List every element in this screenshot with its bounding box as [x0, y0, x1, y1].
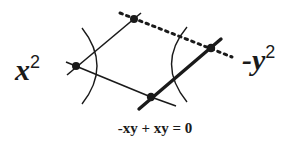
left-label-base: x — [14, 53, 30, 86]
left-label-exponent: 2 — [30, 52, 40, 72]
vertex-bottom — [147, 93, 155, 101]
feynman-diagram: x2 -y2 -xy + xy = 0 — [0, 0, 294, 141]
right-label-sign: - — [242, 43, 252, 76]
right-label-exponent: 2 — [265, 42, 275, 62]
vertex-left — [72, 62, 80, 70]
right-label: -y2 — [242, 42, 275, 76]
right-label-base: y — [249, 43, 266, 76]
vertex-top — [130, 15, 138, 23]
equation-text: -xy + xy = 0 — [118, 120, 193, 136]
equation: -xy + xy = 0 — [118, 120, 193, 136]
left-arc — [82, 28, 97, 104]
left-label: x2 — [14, 52, 40, 86]
vertex-right — [207, 44, 215, 52]
